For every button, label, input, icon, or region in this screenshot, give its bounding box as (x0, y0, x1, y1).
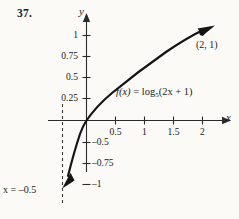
function-curve (68, 31, 201, 176)
asymptote-label: x = –0.5 (3, 184, 36, 195)
y-axis-label: y (79, 5, 84, 17)
log-argument: (2x + 1) (159, 86, 193, 97)
y-tick-label-0-25: 0.25 (42, 92, 78, 103)
y-tick-label-0-75: 0.75 (42, 50, 78, 61)
point-marker-2-1 (199, 30, 204, 35)
x-tick-label-1: 1 (130, 126, 159, 137)
point-label-2-1: (2, 1) (196, 39, 218, 50)
x-tick-label-1-5: 1.5 (158, 126, 189, 137)
function-argument: (x) (119, 86, 131, 97)
logarithm-graph-figure: 37. (0, 0, 239, 219)
y-tick-label-1: 1 (46, 29, 78, 40)
y-tick-label-neg-1: –1 (92, 178, 128, 189)
y-tick-label-neg-0-75: –0.75 (92, 157, 132, 168)
equals-sign: = (131, 86, 142, 97)
y-tick-label-neg-0-5: –0.5 (92, 136, 128, 147)
x-tick-label-2: 2 (188, 126, 217, 137)
log-operator: log (142, 86, 155, 97)
function-equation-label: f(x) = log5(2x + 1) (116, 86, 193, 99)
x-axis-label: x (226, 111, 231, 123)
x-tick-label-0-5: 0.5 (100, 126, 131, 137)
y-tick-label-0-5: 0.5 (46, 71, 78, 82)
